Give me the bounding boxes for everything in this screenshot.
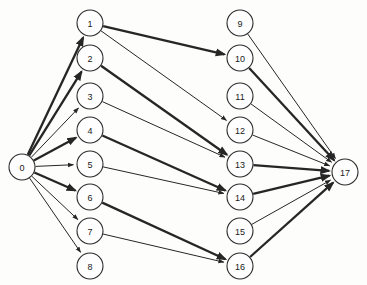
edge-13-to-17 [253,165,329,171]
graph-node-8[interactable]: 8 [77,253,103,279]
graph-node-2[interactable]: 2 [77,45,103,71]
edge-6-to-16 [102,203,225,260]
edge-0-to-4 [34,138,76,161]
node-circle-11[interactable] [227,83,253,109]
graph-node-14[interactable]: 14 [227,184,253,210]
edge-7-to-16 [103,234,224,262]
edge-1-to-10 [103,26,224,54]
edge-0-to-6 [34,172,75,190]
graph-node-16[interactable]: 16 [227,253,253,279]
node-circle-6[interactable] [77,184,103,210]
edge-2-to-13 [101,66,227,155]
graph-node-15[interactable]: 15 [227,218,253,244]
edge-5-to-14 [103,167,224,194]
node-circle-8[interactable] [77,253,103,279]
graph-diagram: 01234567891011121314151617 [0,0,367,285]
node-circle-0[interactable] [9,154,35,180]
node-circle-14[interactable] [227,184,253,210]
edge-15-to-17 [252,180,331,224]
edge-12-to-17 [253,135,330,166]
node-circle-15[interactable] [227,218,253,244]
graph-node-9[interactable]: 9 [227,10,253,36]
node-circle-5[interactable] [77,151,103,177]
edge-16-to-17 [250,183,333,257]
edge-14-to-17 [253,176,329,194]
node-circle-1[interactable] [77,10,103,36]
node-circle-12[interactable] [227,117,253,143]
edge-10-to-17 [249,68,334,160]
graph-node-13[interactable]: 13 [227,151,253,177]
edges-layer [28,26,336,262]
edge-4-to-14 [102,136,225,191]
graph-node-5[interactable]: 5 [77,151,103,177]
graph-node-10[interactable]: 10 [227,45,253,71]
edge-1-to-12 [101,31,227,121]
graph-node-1[interactable]: 1 [77,10,103,36]
node-circle-2[interactable] [77,45,103,71]
graph-node-11[interactable]: 11 [227,83,253,109]
graph-node-0[interactable]: 0 [9,154,35,180]
graph-node-4[interactable]: 4 [77,117,103,143]
node-circle-13[interactable] [227,151,253,177]
graph-node-3[interactable]: 3 [77,83,103,109]
edge-9-to-17 [248,34,336,158]
node-circle-4[interactable] [77,117,103,143]
node-circle-10[interactable] [227,45,253,71]
node-circle-3[interactable] [77,83,103,109]
node-circle-16[interactable] [227,253,253,279]
edge-0-to-5 [35,165,73,167]
node-circle-9[interactable] [227,10,253,36]
graph-node-17[interactable]: 17 [332,159,358,185]
graph-node-7[interactable]: 7 [77,218,103,244]
graph-node-12[interactable]: 12 [227,117,253,143]
node-circle-7[interactable] [77,218,103,244]
graph-node-6[interactable]: 6 [77,184,103,210]
node-circle-17[interactable] [332,159,358,185]
